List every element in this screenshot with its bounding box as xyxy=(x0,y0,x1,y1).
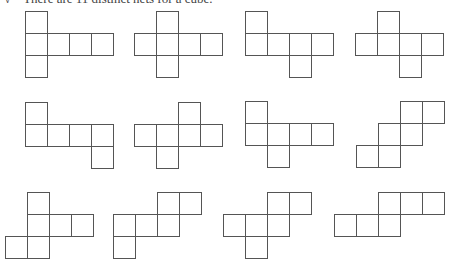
net-square xyxy=(267,214,290,237)
net-square xyxy=(27,214,50,237)
net-square xyxy=(245,123,268,146)
net-square xyxy=(378,192,401,215)
net-square xyxy=(245,11,268,34)
net-square xyxy=(400,123,423,146)
net-square xyxy=(156,55,179,78)
net-square xyxy=(355,33,378,56)
net-square xyxy=(156,33,179,56)
net-square xyxy=(91,124,114,147)
net-square xyxy=(311,33,334,56)
net-square xyxy=(245,33,268,56)
net-square xyxy=(179,192,202,215)
net-square xyxy=(157,214,180,237)
net-square xyxy=(267,192,290,215)
net-square xyxy=(47,124,70,147)
net-square xyxy=(356,145,379,168)
net-square xyxy=(289,123,312,146)
net-square xyxy=(289,192,312,215)
net-square xyxy=(267,123,290,146)
net-square xyxy=(27,236,50,259)
net-square xyxy=(47,33,70,56)
net-square xyxy=(25,33,48,56)
net-square xyxy=(289,55,312,78)
net-square xyxy=(156,146,179,169)
net-square xyxy=(378,123,401,146)
net-square xyxy=(289,33,312,56)
net-square xyxy=(422,192,445,215)
net-square xyxy=(200,124,223,147)
net-square xyxy=(113,214,136,237)
net-square xyxy=(421,33,444,56)
net-square xyxy=(378,145,401,168)
caption: √There are 11 distinct nets for a cube. xyxy=(4,0,213,7)
net-square xyxy=(25,102,48,125)
check-icon: √ xyxy=(4,0,11,6)
net-square xyxy=(399,33,422,56)
net-square xyxy=(400,192,423,215)
caption-text: There are 11 distinct nets for a cube. xyxy=(23,0,212,6)
net-square xyxy=(25,124,48,147)
net-square xyxy=(71,214,94,237)
net-square xyxy=(377,11,400,34)
net-square xyxy=(311,123,334,146)
net-square xyxy=(49,214,72,237)
net-square xyxy=(156,124,179,147)
net-square xyxy=(157,192,180,215)
net-square xyxy=(178,33,201,56)
net-square xyxy=(69,33,92,56)
net-square xyxy=(5,236,28,259)
net-square xyxy=(377,33,400,56)
net-square xyxy=(25,55,48,78)
net-square xyxy=(334,214,357,237)
net-square xyxy=(356,214,379,237)
net-square xyxy=(422,101,445,124)
net-square xyxy=(135,214,158,237)
net-square xyxy=(378,214,401,237)
net-square xyxy=(134,33,157,56)
net-square xyxy=(25,11,48,34)
net-square xyxy=(91,33,114,56)
net-square xyxy=(245,214,268,237)
net-square xyxy=(223,214,246,237)
net-square xyxy=(113,236,136,259)
net-square xyxy=(178,102,201,125)
net-square xyxy=(400,101,423,124)
net-square xyxy=(69,124,92,147)
net-square xyxy=(267,33,290,56)
net-square xyxy=(156,11,179,34)
net-square xyxy=(245,101,268,124)
net-square xyxy=(91,146,114,169)
net-square xyxy=(245,236,268,259)
net-square xyxy=(134,124,157,147)
net-square xyxy=(178,124,201,147)
net-square xyxy=(200,33,223,56)
net-square xyxy=(399,55,422,78)
net-square xyxy=(267,145,290,168)
net-square xyxy=(27,192,50,215)
